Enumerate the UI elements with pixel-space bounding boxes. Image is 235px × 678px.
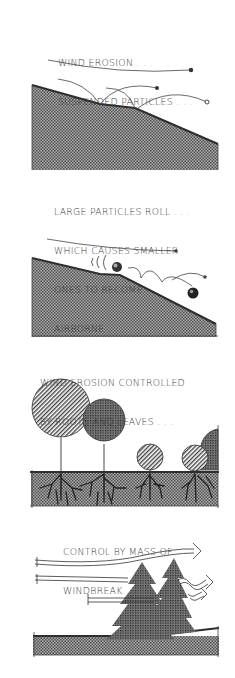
shrub-canopy xyxy=(137,444,163,470)
caption-line: ONES TO BECOME xyxy=(54,283,190,296)
particle xyxy=(205,100,209,104)
caption-windbreak: CONTROL BY MASS OF WINDBREAK . . . xyxy=(63,519,173,610)
caption-line: CONTROL BY MASS OF xyxy=(63,545,173,558)
caption-line: AIRBORNE . . . xyxy=(54,322,190,335)
caption-rolling: LARGE PARTICLES ROLL . . . WHICH CAUSES … xyxy=(54,179,190,348)
caption-suspended: WIND EROSION . . . SUSPENDED PARTICLES .… xyxy=(58,30,192,121)
particle xyxy=(203,275,207,279)
caption-line: SUSPENDED PARTICLES . . . xyxy=(58,95,192,108)
caption-roots: WIND EROSION CONTROLLED BY ROOTS AND LEA… xyxy=(40,350,185,441)
caption-line: WHICH CAUSES SMALLER xyxy=(54,244,190,257)
caption-line: WINDBREAK . . . xyxy=(63,584,173,597)
caption-line: WIND EROSION CONTROLLED xyxy=(40,376,185,389)
caption-line: BY ROOTS AND LEAVES . . . xyxy=(40,415,185,428)
caption-line: WIND EROSION . . . xyxy=(58,56,192,69)
caption-line: LARGE PARTICLES ROLL . . . xyxy=(54,205,190,218)
shrub-canopy-right xyxy=(182,445,208,471)
